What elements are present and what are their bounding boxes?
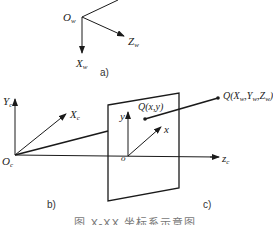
projection-ray <box>15 131 108 155</box>
camera-x-label: Xc <box>70 109 80 122</box>
image-origin-label: o <box>121 154 126 163</box>
panel-a-tag: a) <box>100 68 109 78</box>
world-origin-label: Ow <box>63 12 76 25</box>
world-point-label: Q(Xw,Yw,Zw) <box>223 91 273 103</box>
world-z-axis-arrow <box>82 17 124 36</box>
coordinate-diagram <box>0 0 273 225</box>
camera-y-label: Yc <box>3 96 12 109</box>
world-frame <box>82 0 124 53</box>
optical-axis-left <box>15 155 108 156</box>
image-x-label: x <box>164 124 169 135</box>
world-z-label: Zw <box>128 36 139 49</box>
camera-frame <box>15 99 108 156</box>
world-point-dot <box>216 96 220 100</box>
image-point-dot <box>143 117 147 121</box>
panel-b-tag: b) <box>47 200 56 210</box>
camera-origin-label: Oc <box>2 156 13 169</box>
image-x-axis-arrow <box>128 127 161 156</box>
image-point-label: Q(x,y) <box>138 102 163 112</box>
figure-caption: 图 X-XX 坐标系示意图 <box>74 214 196 225</box>
panel-c-tag: c) <box>203 200 211 210</box>
image-y-label: y <box>120 111 125 122</box>
world-x-label: Xw <box>76 58 87 71</box>
zc-label: zc <box>222 153 229 166</box>
world-y-axis-line <box>82 0 118 17</box>
